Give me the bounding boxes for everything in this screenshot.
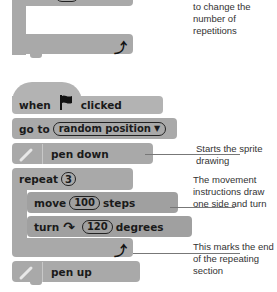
turn-degrees-block[interactable]: turn ↷ 120 degrees [27,216,192,237]
top-annotation: to change the number of repetitions [193,1,273,37]
loop-end-annotation: This marks the end of the repeating sect… [193,241,277,277]
go-to-dropdown-value: random position [59,123,151,134]
repeat-block[interactable]: repeat 3 [12,168,133,190]
hat-when-label: when [19,99,51,111]
green-flag-icon [59,94,73,112]
top-repeat-block[interactable]: repeat 10 [12,0,133,6]
move-steps-input[interactable]: 100 [69,196,100,210]
pen-up-label: pen up [51,266,92,278]
go-to-block[interactable]: go to random position ▼ [12,118,177,139]
pen-up-notch [30,281,42,285]
top-repeat-notch [30,54,42,58]
turn-unit-label: degrees [116,221,164,233]
pen-down-label: pen down [51,148,109,160]
go-to-label: go to [19,123,50,135]
chevron-down-icon: ▼ [154,124,160,133]
repeat-left-arm [12,188,27,243]
loop-arrow-icon: ⤴ [114,240,127,259]
move-steps-block[interactable]: move 100 steps [27,192,178,213]
rotate-clockwise-icon: ↷ [63,219,75,235]
move-label: move [34,197,66,209]
turn-degrees-input[interactable]: 120 [82,220,113,234]
hat-clicked-label: clicked [81,99,122,111]
turn-label: turn [34,221,59,233]
movement-annotation: The movement instructions draw one side … [193,174,277,210]
pen-icon [12,144,43,164]
pen-icon [12,262,43,282]
pen-down-block[interactable]: pen down [12,143,153,164]
repeat-label: repeat [19,173,58,185]
top-loop-arrow-icon: ⤴ [114,37,127,56]
when-flag-clicked-block[interactable]: when clicked [12,96,163,114]
top-repeat-value[interactable]: 10 [55,0,79,2]
pen-up-block[interactable]: pen up [12,261,140,282]
repeat-count-input[interactable]: 3 [61,172,76,186]
move-unit-label: steps [103,197,135,209]
pen-down-annotation: Starts the sprite drawing [196,143,276,167]
go-to-dropdown[interactable]: random position ▼ [53,122,167,136]
